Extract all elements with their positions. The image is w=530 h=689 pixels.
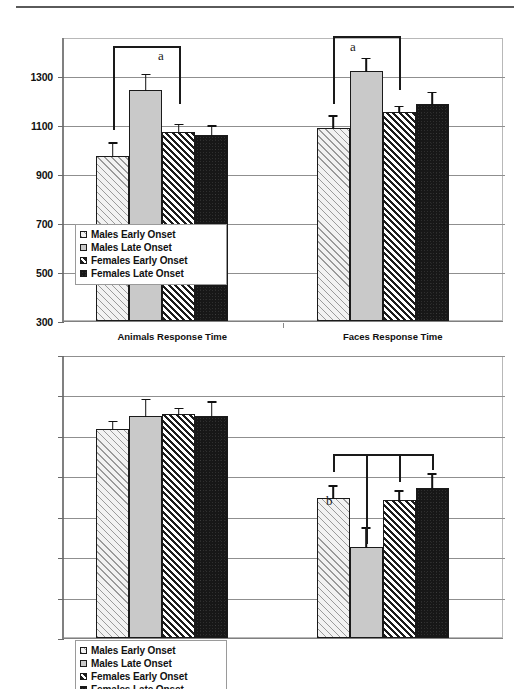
legend-item: Females Early Onset [80, 254, 221, 267]
legend-item: Females Late Onset [80, 267, 221, 280]
black-swatch [80, 270, 87, 277]
bracket-leg [399, 36, 401, 90]
response-time-chart: aa 30050070090011001300 Animals Response… [0, 0, 530, 345]
x-axis-category-label: Animals Response Time [82, 331, 262, 342]
legend-item: Females Late Onset [80, 683, 221, 689]
y-axis-label: 500 [36, 267, 53, 279]
significance-label: a [350, 40, 356, 53]
legend-item-label: Males Late Onset [91, 658, 172, 669]
x-axis-category-label: Faces Response Time [303, 331, 483, 342]
light-grey-swatch [80, 660, 87, 667]
legend: Males Early OnsetMales Late OnsetFemales… [75, 640, 227, 689]
light-hatch-swatch [80, 647, 87, 654]
legend-item-label: Males Late Onset [91, 242, 172, 253]
figure-root: aa 30050070090011001300 Animals Response… [0, 0, 530, 689]
y-axis-tick [58, 322, 64, 323]
legend-item-label: Males Early Onset [91, 229, 175, 240]
legend-item-label: Females Early Onset [91, 255, 187, 266]
dark-hatch-swatch [80, 673, 87, 680]
significance-bracket: b [64, 356, 505, 639]
legend-item-label: Females Late Onset [91, 268, 184, 279]
legend-item: Males Early Onset [80, 228, 221, 241]
dark-hatch-swatch [80, 257, 87, 264]
bracket-leg [366, 454, 368, 544]
y-axis-tick [58, 639, 64, 640]
legend-item-label: Males Early Onset [91, 645, 175, 656]
bracket-leg [432, 454, 434, 470]
legend-item-label: Females Early Onset [91, 671, 187, 682]
legend-item-label: Females Late Onset [91, 684, 184, 689]
y-axis-label: 700 [36, 218, 53, 230]
x-axis-group-divider [283, 323, 284, 328]
legend-item: Males Late Onset [80, 657, 221, 670]
y-axis-label: 900 [36, 169, 53, 181]
legend-item: Females Early Onset [80, 670, 221, 683]
legend: Males Early OnsetMales Late OnsetFemales… [75, 224, 227, 285]
bracket-top-line [333, 36, 399, 38]
legend-item: Males Early Onset [80, 644, 221, 657]
bracket-leg [333, 36, 335, 104]
light-grey-swatch [80, 244, 87, 251]
y-axis-label: 300 [36, 316, 53, 328]
y-axis-label: 1300 [30, 71, 53, 83]
legend-item: Males Late Onset [80, 241, 221, 254]
accuracy-chart: b 65%70%75%80%85%90%95%100% Animals Accu… [0, 345, 530, 689]
light-hatch-swatch [80, 231, 87, 238]
bracket-leg [399, 454, 401, 482]
accuracy-plot-area: b [62, 356, 503, 639]
bracket-leg [333, 454, 335, 472]
bracket-top-line [333, 454, 432, 456]
y-axis-label: 1100 [31, 120, 53, 132]
significance-label: b [326, 494, 333, 507]
